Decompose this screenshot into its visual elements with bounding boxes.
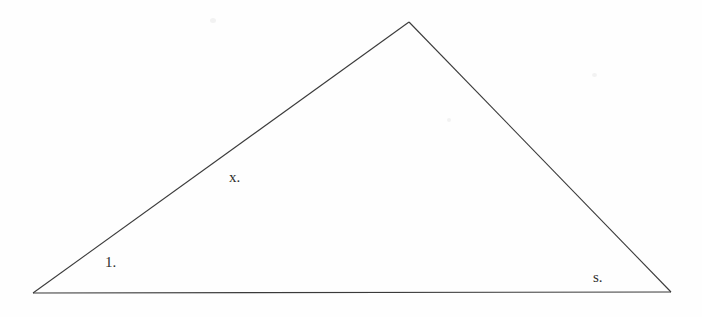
left-side-label: x. — [229, 170, 240, 185]
triangle-left-side — [33, 22, 409, 293]
triangle-base-side — [33, 292, 671, 293]
triangle-right-side — [409, 22, 671, 292]
diagram-canvas: 1. x. s. — [0, 0, 702, 317]
right-angle-label: s. — [593, 270, 603, 285]
left-angle-label: 1. — [105, 255, 116, 270]
